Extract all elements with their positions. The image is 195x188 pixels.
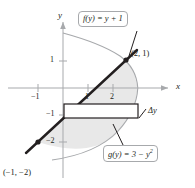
x-tick-label-1: 1 [85,93,89,101]
callout-function-f: f(y) = y + 1 [78,11,128,27]
representative-rectangle [64,104,138,118]
point-label-upper: (2, 1) [131,49,149,58]
y-axis-arrowhead [60,22,66,29]
y-axis-label: y [58,11,62,20]
delta-y-leader [139,109,146,118]
delta-y-label: Δy [148,106,157,115]
graph-canvas [0,0,195,188]
y-tick-label-1: 1 [50,56,54,64]
x-axis-arrowhead [161,85,168,91]
point-label-lower: (−1, −2) [3,168,31,177]
callout-g-text: g(y) = 3 − y [108,149,150,159]
x-tick-label-2: 2 [110,93,114,101]
x-axis-label: x [176,82,180,91]
math-figure: x y −1 1 2 1 −1 −2 (2, 1) (−1, −2) Δy f(… [0,0,195,188]
callout-function-g: g(y) = 3 − y2 [103,145,158,162]
callout-g-exponent: 2 [150,148,153,154]
x-tick-label-neg1: −1 [31,93,40,101]
point-dot-lower [35,139,40,144]
y-tick-label-neg1: −1 [46,110,55,118]
callout-f-text: f(y) = y + 1 [83,13,123,23]
point-dot-upper [123,57,128,62]
y-tick-label-neg2: −2 [46,137,55,145]
